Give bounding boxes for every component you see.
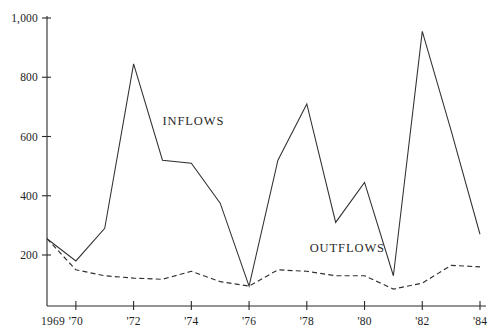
y-tick-label: 200 xyxy=(20,249,38,261)
x-tick-label: '80 xyxy=(357,315,371,327)
series-label-inflows: INFLOWS xyxy=(162,114,224,128)
x-tick-label: '78 xyxy=(300,315,314,327)
y-tick-label: 600 xyxy=(20,131,38,143)
series-label-outflows: OUTFLOWS xyxy=(310,241,385,255)
x-tick-label: '74 xyxy=(184,315,198,327)
x-tick-label: '84 xyxy=(473,315,487,327)
x-tick-label: '72 xyxy=(127,315,141,327)
x-tick-label: '82 xyxy=(415,315,429,327)
series-line-outflows xyxy=(47,239,480,289)
chart-canvas: 2004006008001,000 1969'70'72'74'76'78'80… xyxy=(0,0,494,336)
data-series-group xyxy=(47,31,480,289)
x-axis-ticks: 1969'70'72'74'76'78'80'82'84 xyxy=(41,301,487,327)
x-axis: 1969'70'72'74'76'78'80'82'84 xyxy=(41,301,487,327)
line-chart: 2004006008001,000 1969'70'72'74'76'78'80… xyxy=(0,0,494,336)
series-annotations: INFLOWSOUTFLOWS xyxy=(162,114,384,255)
x-tick-label: '76 xyxy=(242,315,256,327)
y-axis-ticks: 2004006008001,000 xyxy=(11,12,51,261)
y-axis: 2004006008001,000 xyxy=(11,12,51,306)
series-line-inflows xyxy=(47,31,480,286)
x-tick-label: '70 xyxy=(69,315,83,327)
x-tick-label: 1969 xyxy=(41,315,65,327)
y-tick-label: 1,000 xyxy=(11,12,38,25)
y-tick-label: 800 xyxy=(20,71,38,83)
y-tick-label: 400 xyxy=(20,190,38,202)
